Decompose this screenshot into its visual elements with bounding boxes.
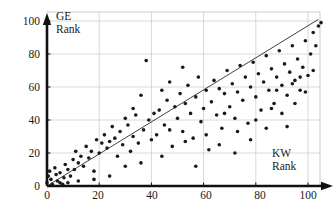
- y-axis-title-line2: Rank: [56, 23, 80, 36]
- y-axis-title-line1: GE: [56, 10, 80, 23]
- x-tick-label-60: 60: [200, 189, 212, 201]
- y-tick-label-0: 0: [18, 180, 40, 192]
- x-axis-title-line1: KW: [272, 147, 296, 160]
- x-tick-label-100: 100: [299, 189, 316, 201]
- y-tick-label-20: 20: [18, 147, 40, 159]
- y-tick-label-80: 80: [18, 48, 40, 60]
- y-axis-title: GE Rank: [56, 10, 80, 36]
- y-tick-label-100: 100: [11, 15, 40, 27]
- x-axis-title-line2: Rank: [272, 160, 296, 173]
- y-tick-label-60: 60: [18, 81, 40, 93]
- scatter-plot-figure: 0 20 40 60 80 100 0 20 40 60 80 100 GE R…: [0, 0, 335, 216]
- y-tick-label-40: 40: [18, 114, 40, 126]
- x-tick-label-40: 40: [146, 189, 158, 201]
- x-axis-title: KW Rank: [272, 147, 296, 173]
- x-tick-label-20: 20: [92, 189, 104, 201]
- x-tick-label-0: 0: [44, 189, 50, 201]
- plot-canvas: [0, 0, 335, 216]
- x-tick-label-80: 80: [254, 189, 266, 201]
